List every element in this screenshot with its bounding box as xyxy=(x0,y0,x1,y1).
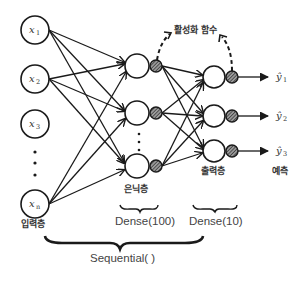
output-layer: 출력층 xyxy=(201,66,238,176)
input-hidden-edges xyxy=(49,30,126,204)
prediction-label: 예측 xyxy=(272,165,288,176)
svg-text:2: 2 xyxy=(36,78,40,86)
svg-text:x: x xyxy=(29,118,35,129)
dense100-brace: Dense(100) xyxy=(115,205,175,227)
hidden-output-edges xyxy=(162,66,203,166)
svg-text:ŷ: ŷ xyxy=(275,145,282,156)
sequential-brace: Sequential( ) xyxy=(45,236,203,264)
input-layer-label: 입력층 xyxy=(21,218,45,229)
activation-node xyxy=(150,60,162,72)
neural-network-diagram: x 1 x 2 x 3 x n 입력층 xyxy=(0,0,305,282)
input-node-x3: x 3 xyxy=(21,110,49,138)
svg-text:2: 2 xyxy=(283,115,287,123)
activation-node xyxy=(226,71,238,83)
prediction-arrows xyxy=(238,77,268,151)
output-layer-label: 출력층 xyxy=(201,165,225,176)
input-node-x1: x 1 xyxy=(21,16,49,44)
svg-text:ŷ: ŷ xyxy=(275,71,282,82)
svg-text:x: x xyxy=(29,73,35,84)
svg-text:3: 3 xyxy=(36,123,40,131)
output-node xyxy=(203,66,225,88)
dense100-label: Dense(100) xyxy=(115,215,175,227)
activation-node xyxy=(150,107,162,119)
sequential-label: Sequential( ) xyxy=(90,252,155,264)
ellipsis-dots xyxy=(138,133,141,152)
svg-text:ŷ: ŷ xyxy=(275,110,282,121)
svg-text:1: 1 xyxy=(36,29,40,37)
hidden-layer-label: 은닉층 xyxy=(124,183,148,194)
output-node xyxy=(203,105,225,127)
activation-node xyxy=(150,160,162,172)
activation-node xyxy=(226,145,238,157)
ellipsis-dots xyxy=(33,150,36,176)
input-node-x2: x 2 xyxy=(21,65,49,93)
svg-text:1: 1 xyxy=(283,76,287,84)
hidden-node xyxy=(125,154,149,178)
dense10-brace: Dense(10) xyxy=(189,205,243,227)
output-node xyxy=(203,140,225,162)
svg-text:3: 3 xyxy=(283,150,287,158)
hidden-layer: 은닉층 xyxy=(124,54,162,194)
svg-text:x: x xyxy=(29,198,35,209)
hidden-node xyxy=(125,101,149,125)
activation-function-label: 활성화 함수 xyxy=(174,24,217,35)
activation-arrows xyxy=(157,32,232,71)
hidden-node xyxy=(125,54,149,78)
svg-text:x: x xyxy=(29,24,35,35)
svg-text:n: n xyxy=(36,203,40,211)
input-layer: x 1 x 2 x 3 x n 입력층 xyxy=(21,16,49,229)
activation-node xyxy=(226,110,238,122)
input-node-xn: x n xyxy=(21,190,49,218)
dense10-label: Dense(10) xyxy=(189,215,243,227)
predictions: ŷ 1 ŷ 2 ŷ 3 예측 xyxy=(272,71,288,176)
